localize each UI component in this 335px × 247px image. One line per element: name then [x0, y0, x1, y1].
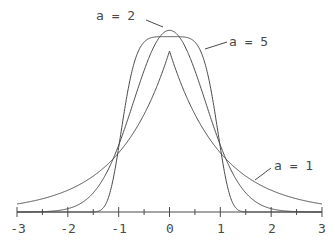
leader-line	[255, 168, 271, 180]
curve-a-1	[17, 51, 322, 204]
curve-a-2	[17, 30, 322, 212]
density-plot: -3 -2 -1 0 1 2 3 a = 2 a = 5 a = 1	[0, 0, 335, 247]
label-a-1: a = 1	[255, 158, 313, 180]
tick-labels: -3 -2 -1 0 1 2 3	[10, 221, 326, 236]
curves	[17, 30, 322, 212]
tick-label: 2	[268, 221, 276, 236]
leader-line	[205, 42, 227, 49]
tick-label: -1	[111, 221, 127, 236]
curve-label-a-5: a = 5	[229, 34, 268, 49]
tick-label: -3	[10, 221, 26, 236]
tick-label: -2	[60, 221, 76, 236]
tick-label: 0	[166, 221, 174, 236]
label-a-2: a = 2	[96, 8, 163, 27]
label-a-5: a = 5	[205, 34, 268, 49]
tick-label: 1	[217, 221, 225, 236]
curve-label-a-2: a = 2	[96, 8, 135, 23]
leader-line	[146, 20, 163, 27]
curve-label-a-1: a = 1	[274, 158, 313, 173]
curve-a-5	[17, 37, 322, 212]
tick-label: 3	[318, 221, 326, 236]
